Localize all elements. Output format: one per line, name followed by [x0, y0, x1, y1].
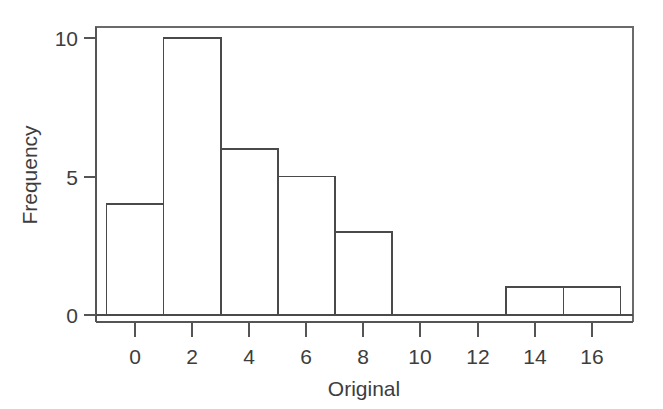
histogram-bar: [221, 149, 278, 315]
histogram-bar: [106, 204, 163, 315]
histogram-svg: 10 5 0 0 2 4 6 8 10 12 14 16: [0, 0, 663, 409]
histogram-bar: [164, 38, 221, 315]
x-tick-label-0: 0: [129, 345, 141, 368]
y-tick-label-0: 0: [66, 304, 78, 327]
y-tick-label-10: 10: [55, 27, 78, 50]
histogram-bar: [335, 232, 392, 315]
y-tick-label-5: 5: [66, 166, 78, 189]
y-axis-title: Frequency: [18, 125, 41, 225]
x-tick-label-12: 12: [466, 345, 489, 368]
histogram-bar: [563, 287, 620, 315]
x-axis: 0 2 4 6 8 10 12 14 16: [96, 322, 633, 368]
histogram-bars: [106, 38, 620, 315]
x-tick-label-8: 8: [357, 345, 369, 368]
x-tick-label-6: 6: [300, 345, 312, 368]
x-axis-title: Original: [328, 377, 400, 400]
histogram-figure: 10 5 0 0 2 4 6 8 10 12 14 16: [0, 0, 663, 409]
x-tick-label-2: 2: [186, 345, 198, 368]
x-tick-label-10: 10: [408, 345, 431, 368]
y-axis: 10 5 0: [55, 27, 96, 327]
histogram-bar: [506, 287, 563, 315]
histogram-bar: [278, 177, 335, 316]
x-tick-label-4: 4: [243, 345, 255, 368]
x-tick-label-14: 14: [523, 345, 547, 368]
x-tick-label-16: 16: [580, 345, 603, 368]
